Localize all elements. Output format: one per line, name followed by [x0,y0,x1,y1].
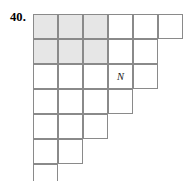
grid-cell-r1-c5 [133,14,158,39]
grid-cell-r3-c3 [83,64,108,89]
grid-cell-shaded-r1-c3 [83,14,108,39]
grid-cell-shaded-r2-c1 [33,39,58,64]
grid-cell-r4-c4 [108,89,133,114]
grid-cell-r3-c2 [58,64,83,89]
grid-cell-r3-c4: N [108,64,133,89]
grid-cell-shaded-r1-c1 [33,14,58,39]
figure-root: 40. N [0,0,195,181]
grid-cell-shaded-r2-c3 [83,39,108,64]
grid-cell-r4-c3 [83,89,108,114]
grid-cell-r7-c1 [33,164,58,181]
cell-label-n: N [109,65,132,88]
problem-number-label: 40. [10,11,26,24]
grid-cell-r6-c1 [33,139,58,164]
staircase-grid: N [33,14,183,166]
grid-cell-r3-c5 [133,64,158,89]
grid-cell-r1-c4 [108,14,133,39]
grid-cell-r2-c5 [133,39,158,64]
grid-cell-shaded-r1-c2 [58,14,83,39]
grid-cell-r5-c3 [83,114,108,139]
grid-cell-r6-c2 [58,139,83,164]
grid-cell-r5-c2 [58,114,83,139]
grid-cell-r4-c2 [58,89,83,114]
grid-cell-r2-c4 [108,39,133,64]
grid-cell-r5-c1 [33,114,58,139]
grid-cell-r1-c6 [158,14,183,39]
grid-cell-shaded-r2-c2 [58,39,83,64]
grid-cell-r3-c1 [33,64,58,89]
grid-cell-r4-c1 [33,89,58,114]
